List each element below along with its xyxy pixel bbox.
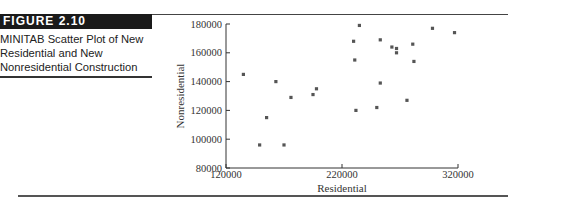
- scatter-plot: 8000010000012000014000016000018000012000…: [0, 0, 584, 206]
- x-axis-title: Residential: [317, 182, 367, 194]
- y-tick-label: 120000: [191, 105, 223, 116]
- x-tick-label: 220000: [326, 169, 358, 180]
- data-point: [315, 87, 318, 90]
- data-point: [379, 38, 382, 41]
- data-point: [411, 43, 414, 46]
- data-point: [242, 73, 245, 76]
- data-point: [412, 60, 415, 63]
- data-point: [274, 80, 277, 83]
- data-point: [358, 24, 361, 27]
- data-point: [352, 40, 355, 43]
- data-point: [395, 51, 398, 54]
- y-tick-label: 140000: [191, 76, 223, 87]
- data-point: [395, 47, 398, 50]
- x-tick-label: 320000: [442, 169, 474, 180]
- data-point: [431, 27, 434, 30]
- data-point: [282, 143, 285, 146]
- data-point: [354, 109, 357, 112]
- data-point: [375, 106, 378, 109]
- data-point: [265, 116, 268, 119]
- data-point: [405, 99, 408, 102]
- data-point: [353, 58, 356, 61]
- data-point: [258, 143, 261, 146]
- y-tick-label: 160000: [191, 47, 223, 58]
- y-tick-label: 100000: [191, 134, 223, 145]
- data-point: [453, 31, 456, 34]
- data-points: [242, 24, 456, 147]
- axes: 8000010000012000014000016000018000012000…: [191, 19, 474, 181]
- data-point: [289, 96, 292, 99]
- y-tick-label: 180000: [191, 19, 223, 30]
- y-axis-title: Nonresidential: [174, 64, 186, 129]
- data-point: [311, 93, 314, 96]
- data-point: [390, 45, 393, 48]
- data-point: [379, 81, 382, 84]
- x-tick-label: 120000: [210, 169, 242, 180]
